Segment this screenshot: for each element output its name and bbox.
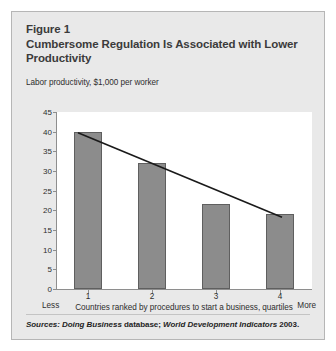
- x-axis-title: Countries ranked by procedures to start …: [56, 303, 312, 312]
- x-tick-label: 2: [150, 292, 155, 301]
- source-part-4: 2003.: [279, 320, 299, 329]
- figure-title-block: Figure 1 Cumbersome Regulation Is Associ…: [26, 22, 312, 66]
- figure-panel: Figure 1 Cumbersome Regulation Is Associ…: [11, 11, 325, 340]
- x-tick-label: 3: [214, 292, 219, 301]
- x-tick-label: 1: [86, 292, 91, 301]
- trend-line-overlay: [26, 92, 312, 297]
- y-axis-unit-label: Labor productivity, $1,000 per worker: [26, 78, 159, 87]
- note-divider: [26, 314, 310, 315]
- figure-title-line-2: Productivity: [26, 51, 312, 66]
- source-part-1: Doing Business: [62, 320, 122, 329]
- x-tick-label: 4: [278, 292, 283, 301]
- chart-plot-area: 454035302520151050 1234 Less More Countr…: [26, 92, 312, 297]
- figure-title-line-1: Cumbersome Regulation Is Associated with…: [26, 37, 312, 52]
- source-label: Sources:: [26, 320, 60, 329]
- source-note: Sources: Doing Business database; World …: [26, 320, 314, 329]
- source-part-3: World Development Indicators: [163, 320, 277, 329]
- source-part-2: database;: [124, 320, 161, 329]
- figure-number: Figure 1: [26, 22, 312, 37]
- trend-line: [78, 133, 282, 218]
